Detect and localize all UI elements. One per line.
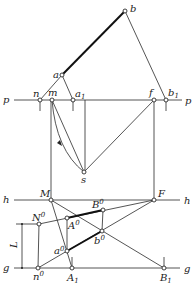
label-b: b	[130, 3, 136, 14]
perspective-construction-diagram: p p h h g g b a n m a1 f b1 s M F N0 A0 …	[0, 0, 196, 289]
point-m	[50, 98, 54, 102]
label-A1: A1	[66, 272, 79, 285]
vertical-B0-b0	[102, 210, 103, 231]
line-M-A1	[51, 200, 72, 268]
label-h-left: h	[3, 194, 9, 205]
point-B1	[162, 266, 166, 270]
label-m: m	[48, 87, 57, 98]
label-F: F	[157, 188, 166, 199]
label-n: n	[33, 88, 39, 99]
point-b	[123, 9, 127, 13]
label-g-right: g	[184, 263, 190, 274]
ray-m-s	[52, 100, 84, 172]
label-p-right: p	[185, 95, 192, 106]
label-N0: N0	[31, 211, 46, 223]
label-a0: a0	[54, 245, 65, 256]
point-a	[60, 73, 64, 77]
point-A1	[70, 266, 74, 270]
line-M-B1	[51, 200, 164, 268]
label-dimension-L: L	[8, 241, 19, 249]
dim-arrow-bottom-icon	[21, 267, 23, 269]
segment-A0-B0	[67, 210, 103, 218]
vertical-N0-n0	[38, 224, 39, 268]
label-B1: B1	[159, 272, 172, 285]
segment-ab	[62, 11, 125, 75]
point-F	[152, 198, 156, 202]
label-b1: b1	[168, 87, 179, 100]
point-a0	[65, 249, 69, 253]
label-M: M	[39, 188, 51, 199]
label-b0: b0	[94, 234, 105, 246]
label-s: s	[81, 174, 86, 185]
label-n0: n0	[33, 270, 44, 282]
line-b-b1	[125, 11, 166, 100]
dim-arrow-top-icon	[21, 223, 23, 225]
ray-f-s	[84, 100, 154, 172]
label-g-left: g	[3, 262, 9, 273]
label-a: a	[53, 69, 59, 80]
label-A0: A0	[67, 219, 80, 231]
point-b0	[100, 229, 104, 233]
point-b1	[164, 98, 168, 102]
label-p-left: p	[3, 94, 10, 105]
label-a1: a1	[75, 88, 85, 101]
label-f: f	[148, 87, 155, 98]
point-B0	[101, 208, 105, 212]
point-f	[152, 98, 156, 102]
label-h-right: h	[184, 195, 190, 206]
line-a-a1	[62, 75, 73, 100]
